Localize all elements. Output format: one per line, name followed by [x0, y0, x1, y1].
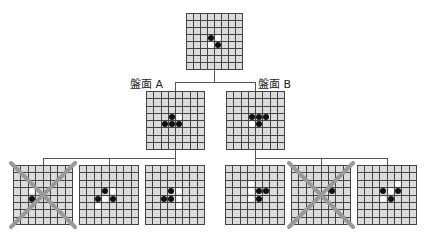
board-cell: [132, 203, 138, 209]
othello-board-B1: [225, 165, 285, 225]
board-cell: [236, 56, 242, 62]
board-cell: [380, 203, 386, 209]
board-cell: [191, 114, 197, 120]
board-cell: [395, 210, 401, 216]
board-cell: [278, 210, 284, 216]
board-cell: [36, 166, 42, 172]
board-cell: [132, 188, 138, 194]
board-cell: [198, 92, 204, 98]
board-cell: [201, 21, 207, 27]
board-cell: [161, 218, 167, 224]
board-cell: [36, 203, 42, 209]
board-cell: [263, 210, 269, 216]
board-cell: [176, 143, 182, 149]
board-cell: [187, 14, 193, 20]
board-cell: [102, 181, 108, 187]
board-cell: [176, 166, 182, 172]
board-cell: [336, 166, 342, 172]
board-cell: [124, 203, 130, 209]
board-cell: [358, 218, 364, 224]
board-cell: [201, 49, 207, 55]
board-cell: [307, 203, 313, 209]
board-cell: [80, 188, 86, 194]
board-cell: [292, 203, 298, 209]
black-stone: [256, 121, 262, 127]
board-cell: [410, 188, 416, 194]
board-cell: [198, 107, 204, 113]
board-cell: [233, 181, 239, 187]
board-cell: [14, 203, 20, 209]
board-cell: [329, 188, 335, 194]
board-cell: [365, 210, 371, 216]
board-cell: [176, 188, 182, 194]
board-cell: [263, 128, 269, 134]
board-cell: [233, 166, 239, 172]
board-cell: [256, 218, 262, 224]
board-cell: [242, 99, 248, 105]
board-cell: [226, 181, 232, 187]
othello-board-A2: [79, 165, 139, 225]
board-cell: [248, 203, 254, 209]
board-cell: [66, 173, 72, 179]
board-cell: [278, 92, 284, 98]
board-cell: [198, 114, 204, 120]
board-cell: [249, 107, 255, 113]
board-cell: [307, 173, 313, 179]
board-cell: [226, 196, 232, 202]
board-cell: [66, 181, 72, 187]
board-cell: [183, 166, 189, 172]
board-cell: [87, 173, 93, 179]
board-cell: [299, 203, 305, 209]
othello-board-root: [186, 13, 243, 70]
board-cell: [176, 92, 182, 98]
board-cell: [147, 121, 153, 127]
black-stone: [256, 114, 262, 120]
board-cell: [183, 196, 189, 202]
board-cell: [278, 143, 284, 149]
board-cell: [256, 166, 262, 172]
board-cell: [190, 181, 196, 187]
board-cell: [365, 203, 371, 209]
board-cell: [222, 21, 228, 27]
board-cell: [161, 210, 167, 216]
board-cell: [215, 35, 221, 41]
board-cell: [51, 181, 57, 187]
white-stone: [248, 188, 254, 194]
board-cell: [278, 181, 284, 187]
white-stone: [388, 188, 394, 194]
board-cell: [190, 203, 196, 209]
board-cell: [194, 14, 200, 20]
connector-b3: [387, 158, 388, 165]
board-cell: [322, 181, 328, 187]
board-cell: [270, 166, 276, 172]
board-cell: [256, 173, 262, 179]
board-cell: [162, 143, 168, 149]
board-cell: [242, 107, 248, 113]
white-stone: [176, 203, 182, 209]
black-stone: [249, 114, 255, 120]
board-cell: [147, 92, 153, 98]
connector-top-horizontal: [175, 82, 256, 83]
board-cell: [263, 166, 269, 172]
board-cell: [87, 218, 93, 224]
board-cell: [365, 166, 371, 172]
board-cell: [14, 210, 20, 216]
board-cell: [236, 42, 242, 48]
white-stone: [95, 203, 101, 209]
board-cell: [271, 121, 277, 127]
board-cell: [388, 173, 394, 179]
board-cell: [263, 121, 269, 127]
board-cell: [183, 188, 189, 194]
black-stone: [169, 121, 175, 127]
board-cell: [365, 218, 371, 224]
board-cell: [278, 218, 284, 224]
board-cell: [263, 114, 269, 120]
board-cell: [314, 203, 320, 209]
connector-root-down: [214, 70, 215, 82]
board-cell: [146, 173, 152, 179]
board-cell: [365, 196, 371, 202]
board-cell: [236, 49, 242, 55]
board-cell: [194, 35, 200, 41]
board-cell: [234, 92, 240, 98]
white-stone: [29, 188, 35, 194]
